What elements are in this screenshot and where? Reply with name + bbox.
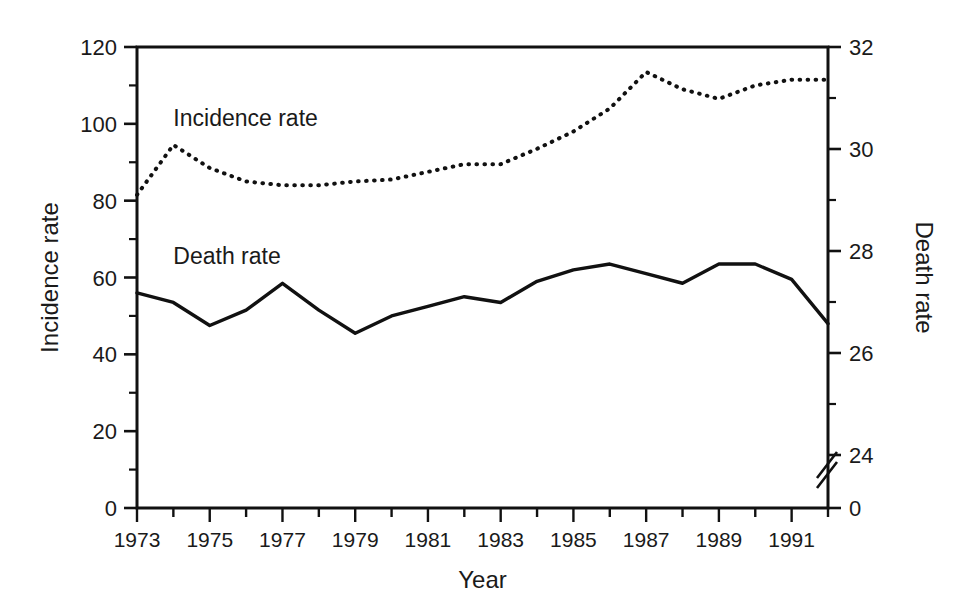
right-axis-tick-label: 26 [849,341,873,366]
data-series: Incidence rateDeath rate [137,72,828,333]
line-chart-svg: 0204060801001200242628303219731975197719… [0,0,970,602]
right-axis-tick-label: 32 [849,35,873,60]
x-axis-tick-label: 1991 [768,528,815,551]
x-axis-tick-label: 1981 [405,528,452,551]
x-axis-title: Year [458,566,507,593]
death-rate-label: Death rate [173,243,280,269]
right-axis-tick-label: 0 [849,496,861,521]
right-axis-tick-label: 28 [849,239,873,264]
left-axis-tick-label: 0 [105,496,117,521]
death-rate-line [137,264,828,333]
left-axis-tick-label: 60 [93,266,117,291]
chart-figure: 0204060801001200242628303219731975197719… [0,0,970,602]
left-axis-tick-label: 100 [80,112,117,137]
x-axis-tick-label: 1983 [477,528,524,551]
left-axis-tick-label: 40 [93,342,117,367]
x-axis-tick-label: 1985 [550,528,597,551]
x-axis-tick-label: 1979 [332,528,379,551]
x-axis-tick-label: 1989 [696,528,743,551]
left-axis-tick-label: 80 [93,189,117,214]
x-axis-tick-label: 1975 [186,528,233,551]
right-axis-tick-label: 24 [849,443,873,468]
left-axis-tick-label: 20 [93,419,117,444]
x-axis-tick-label: 1977 [259,528,306,551]
right-axis-tick-label: 30 [849,137,873,162]
x-axis-tick-label: 1987 [623,528,670,551]
y-axis-title: Incidence rate [36,202,63,353]
incidence-rate-label: Incidence rate [173,105,317,131]
x-axis-tick-label: 1973 [114,528,161,551]
left-axis-tick-label: 120 [80,35,117,60]
incidence-rate-line [137,72,828,195]
secondary-y-axis-title: Death rate [911,221,938,333]
